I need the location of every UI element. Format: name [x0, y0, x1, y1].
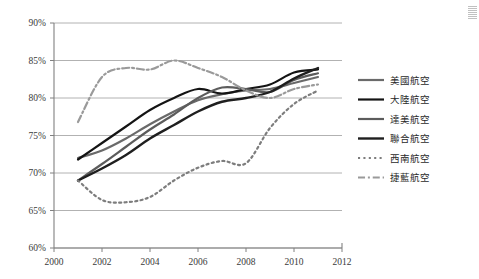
y-tick-label: 60% [29, 243, 47, 253]
gridlines [54, 23, 342, 248]
legend: 美國航空大陸航空達美航空聯合航空西南航空捷藍航空 [358, 75, 430, 184]
x-axis: 2000200220042006200820102012 [45, 248, 352, 267]
y-axis: 60%65%70%75%80%85%90% [29, 18, 54, 253]
x-tick-label: 2002 [93, 257, 112, 267]
series-line-4 [78, 91, 318, 203]
y-tick-label: 70% [29, 168, 47, 178]
series-group [78, 60, 318, 202]
line-chart: 60%65%70%75%80%85%90%2000200220042006200… [0, 0, 479, 279]
legend-label-5: 捷藍航空 [390, 172, 430, 183]
x-tick-label: 2012 [333, 257, 352, 267]
x-tick-label: 2010 [285, 257, 304, 267]
legend-label-2: 達美航空 [390, 114, 430, 125]
legend-label-1: 大陸航空 [390, 94, 430, 105]
legend-label-3: 聯合航空 [390, 133, 430, 144]
chart-canvas: 60%65%70%75%80%85%90%2000200220042006200… [0, 0, 479, 279]
x-tick-label: 2000 [45, 257, 64, 267]
scan-artifact-mark [468, 6, 477, 19]
x-tick-label: 2006 [189, 257, 208, 267]
legend-label-0: 美國航空 [390, 75, 430, 86]
x-tick-label: 2008 [237, 257, 256, 267]
y-tick-label: 65% [29, 206, 47, 216]
y-tick-label: 85% [29, 56, 47, 66]
series-line-3 [78, 68, 318, 181]
legend-label-4: 西南航空 [390, 153, 430, 164]
x-tick-label: 2004 [141, 257, 160, 267]
y-tick-label: 80% [29, 93, 47, 103]
y-tick-label: 75% [29, 131, 47, 141]
y-tick-label: 90% [29, 18, 47, 28]
